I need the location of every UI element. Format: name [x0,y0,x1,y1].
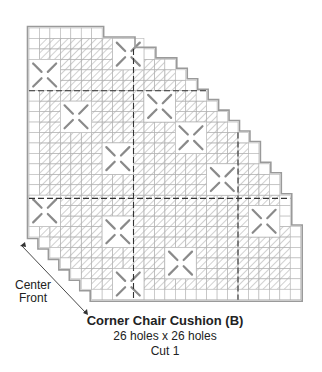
diagram-cut-count: Cut 1 [45,344,285,358]
diagram-size: 26 holes x 26 holes [45,329,285,343]
center-front-label: Center Front [8,279,58,305]
arrowhead-top-icon [20,242,26,247]
diagram-title: Corner Chair Cushion (B) [45,313,285,328]
center-front-line2: Front [8,292,58,305]
